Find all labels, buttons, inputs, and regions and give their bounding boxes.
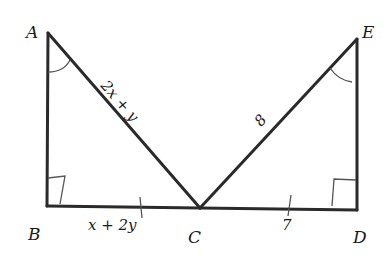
segment-cd [200,208,357,210]
angle-arc-a [48,60,70,72]
point-label-c: C [188,227,201,247]
length-label-cd: 7 [282,216,292,234]
segment-ab [47,33,48,206]
tick-mark-cd [288,195,291,216]
point-label-e: E [361,22,375,42]
point-label-b: B [27,224,41,244]
point-label-d: D [352,227,367,247]
segment-ac [48,33,200,208]
geometry-diagram: A B C D E 2x + y x + 2y 8 7 [0,0,391,258]
point-label-a: A [24,22,38,42]
length-label-ac: 2x + y [96,76,142,126]
segment-bc [47,206,200,208]
angle-arc-e [330,68,352,82]
length-label-bc: x + 2y [88,216,137,234]
right-angle-mark-b [48,176,65,204]
length-label-ce: 8 [251,111,271,130]
right-angle-mark-d [332,179,356,206]
